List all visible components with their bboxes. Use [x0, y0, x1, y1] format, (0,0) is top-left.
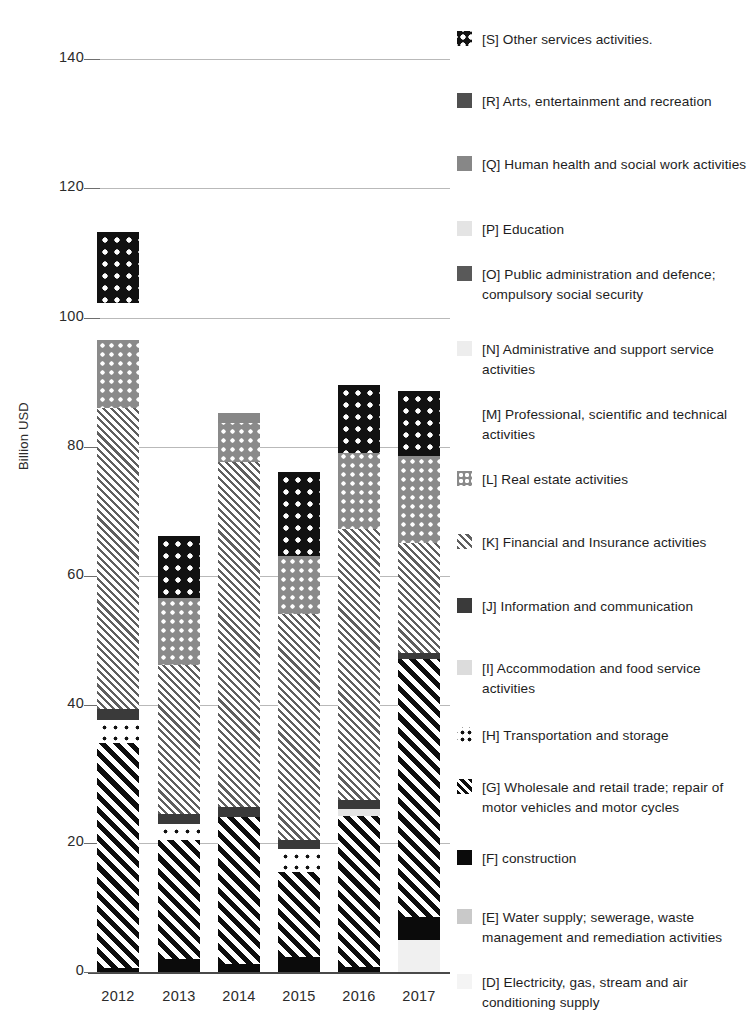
- legend-label: [I] Accommodation and food service activ…: [482, 659, 749, 698]
- legend-item-J[interactable]: [J] Information and communication: [457, 597, 749, 617]
- segment-J-2015[interactable]: [278, 840, 320, 850]
- legend-item-G[interactable]: [G] Wholesale and retail trade; repair o…: [457, 778, 749, 817]
- legend-item-F[interactable]: [F] construction: [457, 849, 749, 869]
- mid-grey-swatch-icon: [457, 156, 472, 171]
- ytick-60: 60: [12, 576, 84, 577]
- segment-J-2013[interactable]: [158, 814, 200, 824]
- ytick-100: 100: [12, 318, 84, 319]
- segment-F-2017[interactable]: [398, 917, 440, 940]
- legend-item-H[interactable]: [H] Transportation and storage: [457, 726, 749, 746]
- segment-K-2015[interactable]: [278, 614, 320, 840]
- segment-L-2014[interactable]: [218, 417, 260, 462]
- xtick-2017: 2017: [398, 988, 440, 1004]
- segment-G-2012[interactable]: [97, 743, 139, 968]
- bold-hatch-swatch-icon: [457, 779, 472, 794]
- segment-G-2015[interactable]: [278, 872, 320, 957]
- ytick-40: 40: [12, 705, 84, 706]
- segment-K-2014[interactable]: [218, 462, 260, 807]
- legend-item-I[interactable]: [I] Accommodation and food service activ…: [457, 659, 749, 698]
- segment-K-2012[interactable]: [97, 408, 139, 709]
- segment-L-2015[interactable]: [278, 556, 320, 614]
- segment-F-2014[interactable]: [218, 964, 260, 972]
- segment-I-2016[interactable]: [338, 809, 380, 816]
- segment-L-2017[interactable]: [398, 456, 440, 543]
- legend-item-P[interactable]: [P] Education: [457, 220, 749, 240]
- ytick-0: 0: [12, 972, 84, 973]
- tick-mark: [84, 972, 100, 973]
- legend-item-R[interactable]: [R] Arts, entertainment and recreation: [457, 92, 749, 112]
- pale-speckle-swatch-icon: [457, 221, 472, 236]
- gridline-100: [95, 318, 450, 319]
- segment-H-2015[interactable]: [278, 849, 320, 872]
- gridline-140: [95, 59, 450, 60]
- legend-item-M[interactable]: [M] Professional, scientific and technic…: [457, 405, 749, 444]
- legend-label: [Q] Human health and social work activit…: [482, 155, 746, 175]
- segment-S-2012[interactable]: [97, 232, 139, 303]
- segment-S-2016[interactable]: [338, 385, 380, 453]
- segment-D-2017[interactable]: [398, 940, 440, 972]
- segment-L-2013[interactable]: [158, 598, 200, 666]
- segment-H-2013[interactable]: [158, 824, 200, 840]
- legend-label: [R] Arts, entertainment and recreation: [482, 92, 712, 112]
- legend-label: [P] Education: [482, 220, 564, 240]
- light-grey-noise-swatch-icon: [457, 909, 472, 924]
- tick-mark: [84, 188, 100, 189]
- ytick-120: 120: [12, 188, 84, 189]
- ytick-20: 20: [12, 843, 84, 844]
- legend-item-L[interactable]: [L] Real estate activities: [457, 470, 749, 490]
- segment-S-2013[interactable]: [158, 536, 200, 597]
- legend-item-K[interactable]: [K] Financial and Insurance activities: [457, 533, 749, 553]
- very-light-swatch-icon: [457, 974, 472, 989]
- stacked-bar-chart: Billion USD 140 120 100 80 60 40 20 0: [0, 0, 749, 1034]
- segment-G-2013[interactable]: [158, 840, 200, 959]
- xtick-2012: 2012: [97, 988, 139, 1004]
- legend-item-D[interactable]: [D] Electricity, gas, stream and air con…: [457, 973, 749, 1012]
- segment-F-2012[interactable]: [97, 968, 139, 973]
- legend-item-E[interactable]: [E] Water supply; sewerage, waste manage…: [457, 908, 749, 947]
- segment-J-2012[interactable]: [97, 709, 139, 721]
- legend-label: [L] Real estate activities: [482, 470, 628, 490]
- segment-S-2017[interactable]: [398, 391, 440, 456]
- segment-G-2014[interactable]: [218, 817, 260, 964]
- pale-speckle-swatch-icon: [457, 341, 472, 356]
- segment-H-2012[interactable]: [97, 720, 139, 743]
- legend-item-S[interactable]: [S] Other services activities.: [457, 30, 749, 50]
- segment-G-2016[interactable]: [338, 816, 380, 967]
- pale-grey-swatch-icon: [457, 660, 472, 675]
- segment-L-2016[interactable]: [338, 451, 380, 528]
- segment-F-2016[interactable]: [338, 967, 380, 972]
- xtick-2014: 2014: [218, 988, 260, 1004]
- legend-label: [E] Water supply; sewerage, waste manage…: [482, 908, 749, 947]
- legend-label: [M] Professional, scientific and technic…: [482, 405, 749, 444]
- segment-J-2014[interactable]: [218, 807, 260, 817]
- bar-stack-2016: [338, 385, 380, 972]
- segment-K-2016[interactable]: [338, 529, 380, 800]
- segment-F-2015[interactable]: [278, 957, 320, 972]
- plot-area: Billion USD 140 120 100 80 60 40 20 0: [0, 0, 455, 1034]
- bar-stack-2013: [158, 536, 200, 972]
- legend-item-O[interactable]: [O] Public administration and defence; c…: [457, 265, 749, 304]
- axis-line-zero: [88, 972, 450, 974]
- segment-G-2017[interactable]: [398, 659, 440, 917]
- segment-J-2017[interactable]: [398, 653, 440, 660]
- black-dotted-swatch-icon: [457, 31, 472, 46]
- legend-label: [O] Public administration and defence; c…: [482, 265, 749, 304]
- solid-dark-swatch-icon: [457, 598, 472, 613]
- bar-stack-2014: [218, 413, 260, 972]
- segment-F-2013[interactable]: [158, 959, 200, 972]
- bar-stack-2017: [398, 391, 440, 972]
- segment-L-2012[interactable]: [97, 340, 139, 408]
- segment-K-2013[interactable]: [158, 665, 200, 813]
- segment-Q-2014[interactable]: [218, 413, 260, 423]
- legend-label: [G] Wholesale and retail trade; repair o…: [482, 778, 749, 817]
- segment-S-2015[interactable]: [278, 472, 320, 556]
- bar-stack-2015: [278, 472, 320, 972]
- legend-item-Q[interactable]: [Q] Human health and social work activit…: [457, 155, 749, 175]
- segment-K-2017[interactable]: [398, 543, 440, 653]
- y-axis-title: Billion USD: [16, 402, 31, 470]
- ytick-140: 140: [12, 59, 84, 60]
- ytick-80: 80: [12, 447, 84, 448]
- legend-item-N[interactable]: [N] Administrative and support service a…: [457, 340, 749, 379]
- gridline-20: [95, 843, 450, 844]
- segment-J-2016[interactable]: [338, 800, 380, 810]
